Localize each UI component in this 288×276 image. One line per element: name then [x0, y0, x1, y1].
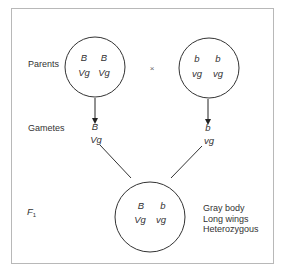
- parent-left-circle: [65, 37, 125, 97]
- parent-right-allele: vg: [213, 68, 223, 79]
- parents-label: Parents: [28, 59, 59, 70]
- offspring-allele: b: [160, 200, 165, 211]
- parent-right-allele: b: [215, 53, 220, 64]
- parent-left-allele: Vg: [78, 67, 90, 78]
- gamete-right-allele: vg: [204, 135, 214, 146]
- phenotype-wings: Long wings: [203, 214, 259, 225]
- connector-right: [171, 146, 202, 178]
- gamete-left-allele: Vg: [90, 134, 102, 145]
- parent-left-allele: B: [81, 52, 87, 63]
- cross-symbol: ×: [150, 64, 155, 73]
- parent-right-allele: b: [194, 53, 199, 64]
- offspring-allele: vg: [156, 214, 166, 225]
- f1-label: F1: [27, 206, 36, 218]
- connector-left: [100, 145, 131, 178]
- parent-left-allele: Vg: [98, 67, 110, 78]
- gamete-left-allele: B: [92, 121, 98, 132]
- diagram-canvas: [0, 0, 288, 276]
- phenotype-description: Gray body Long wings Heterozygous: [203, 203, 259, 235]
- phenotype-body: Gray body: [203, 203, 259, 214]
- gamete-right-allele: b: [205, 122, 210, 133]
- parent-right-allele: vg: [192, 68, 202, 79]
- phenotype-zygosity: Heterozygous: [203, 224, 259, 235]
- offspring-allele: Vg: [134, 214, 146, 225]
- parent-left-allele: B: [101, 52, 107, 63]
- parent-right-circle: [179, 38, 239, 98]
- offspring-circle: [115, 182, 185, 252]
- offspring-allele: B: [138, 200, 144, 211]
- gametes-label: Gametes: [28, 123, 65, 134]
